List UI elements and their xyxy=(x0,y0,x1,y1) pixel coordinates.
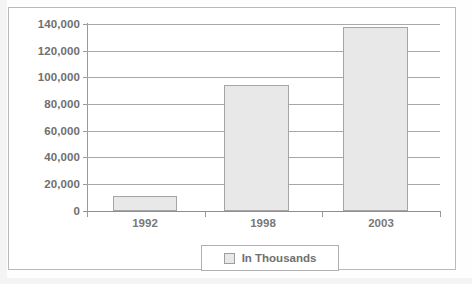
bar-2003[interactable] xyxy=(343,27,408,211)
y-tick-label-20000: 20,000 xyxy=(8,178,80,190)
x-tick-mark xyxy=(205,211,206,217)
x-tick-label-2003: 2003 xyxy=(350,217,412,229)
scan-edge-left xyxy=(0,0,7,284)
y-tick-label-120000: 120,000 xyxy=(8,45,80,57)
chart-legend[interactable]: In Thousands xyxy=(201,245,339,271)
x-axis-line xyxy=(84,211,441,212)
y-tick-label-80000: 80,000 xyxy=(8,98,80,110)
legend-color-swatch-icon xyxy=(224,253,235,264)
legend-label: In Thousands xyxy=(242,252,317,264)
gridline-140000 xyxy=(87,24,440,25)
bar-1992[interactable] xyxy=(113,196,177,211)
x-tick-label-1992: 1992 xyxy=(114,217,176,229)
y-tick-label-0: 0 xyxy=(8,205,80,217)
y-tick-label-60000: 60,000 xyxy=(8,125,80,137)
x-tick-mark xyxy=(322,211,323,217)
y-tick-label-140000: 140,000 xyxy=(8,18,80,30)
y-tick-label-40000: 40,000 xyxy=(8,151,80,163)
chart-screenshot: 140,000 120,000 100,000 80,000 60,000 40… xyxy=(0,0,472,284)
bar-1998[interactable] xyxy=(224,85,289,211)
plot-area xyxy=(87,24,440,211)
x-tick-mark xyxy=(87,211,88,217)
y-tick-label-100000: 100,000 xyxy=(8,71,80,83)
x-tick-label-1998: 1998 xyxy=(232,217,294,229)
scan-edge-bottom xyxy=(0,278,472,284)
x-tick-mark xyxy=(440,211,441,217)
